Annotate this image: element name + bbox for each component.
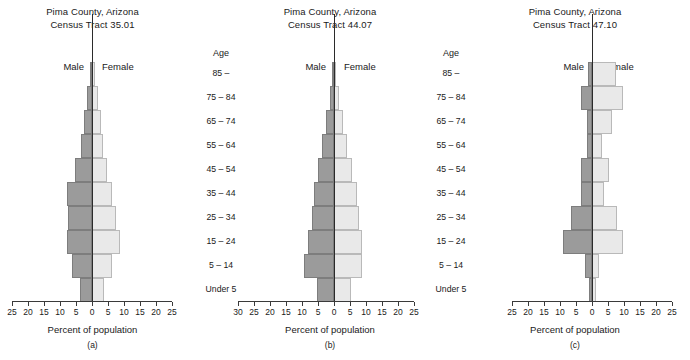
x-tick bbox=[512, 302, 513, 306]
panel-title-line1: Pima County, Arizona bbox=[460, 6, 690, 19]
female-bar bbox=[592, 254, 599, 278]
age-group-label: 75 – 84 bbox=[186, 92, 256, 102]
male-bar bbox=[67, 230, 92, 254]
x-tick bbox=[576, 302, 577, 306]
age-group-label: 25 – 34 bbox=[186, 212, 256, 222]
x-axis-title-b: Percent of population bbox=[230, 324, 430, 335]
male-bar bbox=[67, 182, 92, 206]
age-group-label: 15 – 24 bbox=[186, 236, 256, 246]
age-group-label: Under 5 bbox=[186, 284, 256, 294]
x-tick bbox=[108, 302, 109, 306]
x-axis-line-b bbox=[238, 301, 414, 302]
female-bar bbox=[592, 110, 612, 134]
female-bar bbox=[592, 86, 623, 110]
x-tick bbox=[124, 302, 125, 306]
male-bar bbox=[75, 158, 92, 182]
x-tick bbox=[414, 302, 415, 306]
female-bar bbox=[92, 134, 103, 158]
x-tick bbox=[608, 302, 609, 306]
male-bar bbox=[84, 110, 92, 134]
x-tick bbox=[560, 302, 561, 306]
age-group-label: 65 – 74 bbox=[186, 116, 256, 126]
male-bar bbox=[585, 254, 592, 278]
x-tick bbox=[672, 302, 673, 306]
x-tick bbox=[398, 302, 399, 306]
female-bar bbox=[334, 230, 362, 254]
bar-rows-b bbox=[238, 62, 414, 302]
age-group-label: 65 – 74 bbox=[416, 116, 486, 126]
age-column-header: Age bbox=[416, 48, 486, 58]
x-tick bbox=[544, 302, 545, 306]
age-group-label: 85 – bbox=[416, 68, 486, 78]
age-group-label: 5 – 14 bbox=[186, 260, 256, 270]
male-bar bbox=[308, 230, 334, 254]
x-axis-title-a: Percent of population bbox=[0, 324, 185, 335]
female-bar bbox=[92, 182, 112, 206]
female-bar bbox=[334, 206, 359, 230]
female-bar bbox=[334, 158, 352, 182]
population-pyramid-figure: Pima County, ArizonaCensus Tract 35.01Ma… bbox=[0, 0, 690, 360]
center-axis-line-a bbox=[92, 14, 93, 302]
pyramid-row bbox=[238, 278, 414, 302]
female-bar bbox=[92, 206, 116, 230]
age-group-label: 5 – 14 bbox=[416, 260, 486, 270]
male-bar bbox=[322, 134, 334, 158]
pyramid-row bbox=[238, 230, 414, 254]
pyramid-row bbox=[238, 254, 414, 278]
pyramid-row bbox=[238, 182, 414, 206]
female-bar bbox=[334, 254, 362, 278]
female-bar bbox=[592, 158, 609, 182]
male-bar bbox=[318, 158, 334, 182]
pyramid-row bbox=[238, 134, 414, 158]
x-tick bbox=[28, 302, 29, 306]
female-bar bbox=[92, 278, 104, 302]
age-group-label: 35 – 44 bbox=[186, 188, 256, 198]
x-tick bbox=[140, 302, 141, 306]
age-column-header: Age bbox=[186, 48, 256, 58]
chart-panel-c: Pima County, ArizonaCensus Tract 47.10Ma… bbox=[460, 0, 690, 360]
x-tick bbox=[60, 302, 61, 306]
x-tick bbox=[44, 302, 45, 306]
panel-title-line2: Census Tract 44.07 bbox=[230, 19, 430, 32]
age-group-label: 45 – 54 bbox=[186, 164, 256, 174]
panel-title-b: Pima County, ArizonaCensus Tract 44.07 bbox=[230, 6, 430, 31]
x-tick bbox=[592, 302, 593, 306]
x-tick bbox=[334, 302, 335, 306]
x-tick bbox=[350, 302, 351, 306]
male-bar bbox=[81, 134, 92, 158]
male-bar bbox=[563, 230, 592, 254]
female-bar bbox=[334, 278, 351, 302]
x-tick bbox=[156, 302, 157, 306]
male-bar bbox=[571, 206, 592, 230]
plot-area-a: MaleFemale bbox=[12, 62, 172, 302]
panel-caption-c: (c) bbox=[460, 340, 690, 350]
female-bar bbox=[592, 182, 604, 206]
panel-title-line2: Census Tract 47.10 bbox=[460, 19, 690, 32]
panel-title-line1: Pima County, Arizona bbox=[230, 6, 430, 19]
x-tick bbox=[656, 302, 657, 306]
male-bar bbox=[312, 206, 334, 230]
age-label-column-2: Age85 –75 – 8465 – 7455 – 6445 – 5435 – … bbox=[416, 0, 486, 360]
panel-caption-a: (a) bbox=[0, 340, 185, 350]
x-tick bbox=[286, 302, 287, 306]
x-tick bbox=[382, 302, 383, 306]
male-bar bbox=[326, 110, 334, 134]
x-tick bbox=[528, 302, 529, 306]
male-bar bbox=[581, 158, 592, 182]
male-bar bbox=[581, 86, 592, 110]
female-bar bbox=[592, 134, 602, 158]
x-tick bbox=[92, 302, 93, 306]
panel-title-c: Pima County, ArizonaCensus Tract 47.10 bbox=[460, 6, 690, 31]
age-group-label: 45 – 54 bbox=[416, 164, 486, 174]
plot-area-c: MaleFemale bbox=[512, 62, 672, 302]
female-bar bbox=[92, 158, 107, 182]
female-bar bbox=[334, 110, 343, 134]
x-axis-title-c: Percent of population bbox=[460, 324, 690, 335]
x-tick bbox=[624, 302, 625, 306]
male-bar bbox=[314, 182, 334, 206]
female-bar bbox=[592, 206, 617, 230]
x-tick-label: 25 bbox=[660, 307, 684, 317]
age-group-label: 55 – 64 bbox=[186, 140, 256, 150]
age-group-label: 35 – 44 bbox=[416, 188, 486, 198]
pyramid-row bbox=[238, 86, 414, 110]
